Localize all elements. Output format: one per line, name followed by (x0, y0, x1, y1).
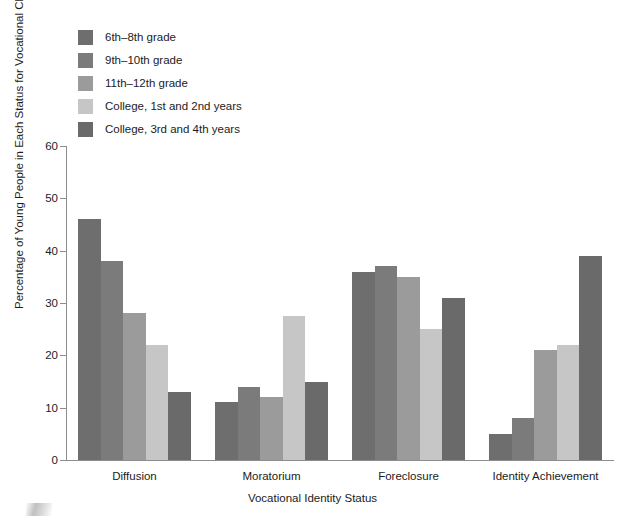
legend-swatch-icon (78, 53, 93, 68)
y-axis-tick-label: 30 (28, 297, 58, 309)
bar-chart-figure: 6th–8th grade 9th–10th grade 11th–12th g… (0, 0, 625, 523)
bar (283, 316, 306, 460)
bar (352, 272, 375, 460)
x-axis-group-label: Diffusion (66, 470, 203, 482)
legend-item: 9th–10th grade (78, 49, 338, 71)
bar (489, 434, 512, 460)
x-axis-group-label: Foreclosure (340, 470, 477, 482)
bar (420, 329, 443, 460)
legend-item-label: 9th–10th grade (105, 54, 182, 67)
y-axis-tick-mark (60, 460, 66, 461)
bar (375, 266, 398, 460)
plot-area (66, 146, 614, 460)
bar (397, 277, 420, 460)
bar (238, 387, 261, 460)
bar (123, 313, 146, 460)
legend-item-label: College, 1st and 2nd years (105, 100, 242, 113)
y-axis-tick-label: 60 (28, 140, 58, 152)
bar (215, 402, 238, 460)
bar (442, 298, 465, 460)
x-axis-title: Vocational Identity Status (0, 492, 625, 504)
legend-swatch-icon (78, 99, 93, 114)
bar (534, 350, 557, 460)
legend-item: 6th–8th grade (78, 26, 338, 48)
bars-layer (66, 146, 614, 460)
legend-item: 11th–12th grade (78, 72, 338, 94)
y-axis-tick-label: 50 (28, 192, 58, 204)
y-axis-title: Percentage of Young People in Each Statu… (13, 9, 25, 309)
x-axis-spine (66, 460, 614, 461)
legend-swatch-icon (78, 122, 93, 137)
bar (305, 382, 328, 461)
y-axis-tick-label: 0 (28, 454, 58, 466)
legend-swatch-icon (78, 76, 93, 91)
bar (101, 261, 124, 460)
x-axis-group-label: Identity Achievement (477, 470, 614, 482)
y-axis-tick-label: 20 (28, 349, 58, 361)
bar (260, 397, 283, 460)
chart-legend: 6th–8th grade 9th–10th grade 11th–12th g… (78, 26, 338, 141)
y-axis-tick-label: 40 (28, 245, 58, 257)
y-axis-tick-label: 10 (28, 402, 58, 414)
bar (78, 219, 101, 460)
bar (512, 418, 535, 460)
legend-item: College, 1st and 2nd years (78, 95, 338, 117)
bar (168, 392, 191, 460)
bar (146, 345, 169, 460)
legend-item-label: 6th–8th grade (105, 31, 176, 44)
legend-swatch-icon (78, 30, 93, 45)
legend-item: College, 3rd and 4th years (78, 118, 338, 140)
bar (579, 256, 602, 460)
x-axis-group-label: Moratorium (203, 470, 340, 482)
legend-item-label: 11th–12th grade (105, 77, 188, 90)
legend-item-label: College, 3rd and 4th years (105, 123, 240, 136)
bar (557, 345, 580, 460)
scan-artifact (26, 503, 52, 516)
